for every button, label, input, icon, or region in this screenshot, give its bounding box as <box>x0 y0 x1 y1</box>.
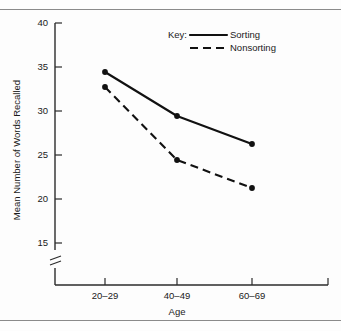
data-point-nonsorting-2 <box>174 157 180 163</box>
line-chart: 40 35 30 25 20 15 20–29 40–49 60–69 Age … <box>0 10 341 320</box>
legend-label-nonsorting: Nonsorting <box>230 42 276 53</box>
y-tick-label-15: 15 <box>37 237 48 248</box>
figure-container: 40 35 30 25 20 15 20–29 40–49 60–69 Age … <box>0 0 341 331</box>
x-tick-label-1: 20–29 <box>92 290 118 301</box>
legend-title: Key: <box>168 29 187 40</box>
y-tick-label-25: 25 <box>37 149 48 160</box>
x-tick-label-3: 60–69 <box>239 290 265 301</box>
y-axis <box>50 23 62 285</box>
data-point-nonsorting-1 <box>102 84 108 90</box>
x-axis-title: Age <box>169 306 186 317</box>
data-point-sorting-2 <box>174 113 180 119</box>
x-axis <box>55 278 328 285</box>
data-point-sorting-1 <box>102 69 108 75</box>
data-point-sorting-3 <box>249 141 255 147</box>
chart-legend: Key: Sorting Nonsorting <box>168 29 276 53</box>
y-axis-title: Mean Number of Words Recalled <box>11 80 22 220</box>
y-tick-label-20: 20 <box>37 193 48 204</box>
y-axis-ticks <box>55 67 62 243</box>
data-point-nonsorting-3 <box>249 185 255 191</box>
x-tick-label-2: 40–49 <box>164 290 190 301</box>
legend-label-sorting: Sorting <box>230 29 260 40</box>
y-tick-label-40: 40 <box>37 17 48 28</box>
y-tick-label-30: 30 <box>37 105 48 116</box>
y-tick-label-35: 35 <box>37 61 48 72</box>
bottom-divider-rule <box>0 320 341 321</box>
